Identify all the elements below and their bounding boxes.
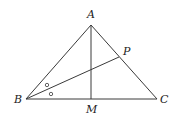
label-m: M <box>85 103 98 116</box>
segment-ab <box>26 25 91 99</box>
label-c: C <box>160 93 169 106</box>
label-a: A <box>86 8 95 21</box>
label-b: B <box>13 93 22 106</box>
label-p: P <box>122 45 131 58</box>
angle-mark-lower <box>49 92 52 95</box>
segment-ca <box>91 25 157 99</box>
segment-bp <box>26 57 119 99</box>
triangle-diagram: A B C M P <box>0 0 176 117</box>
angle-mark-upper <box>45 83 48 86</box>
